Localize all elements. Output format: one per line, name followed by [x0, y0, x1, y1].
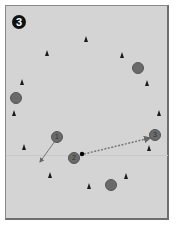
cone-icon [124, 173, 128, 179]
cone-icon [84, 36, 88, 42]
player-marker [10, 92, 22, 104]
cone-icon [145, 80, 149, 86]
run-arrow [40, 141, 55, 162]
movement-arrows [0, 0, 179, 233]
player-marker [105, 179, 117, 191]
cone-icon [87, 183, 91, 189]
pass-arrow [84, 138, 150, 154]
player-marker: 2 [68, 152, 80, 164]
ball [80, 152, 84, 156]
cone-icon [147, 145, 151, 151]
cone-icon [12, 110, 16, 116]
cone-icon [20, 79, 24, 85]
player-marker: 3 [149, 129, 161, 141]
player-marker: 1 [51, 131, 63, 143]
cone-icon [22, 144, 26, 150]
player-marker [132, 62, 144, 74]
cone-icon [45, 50, 49, 56]
cone-icon [120, 52, 124, 58]
cone-icon [48, 172, 52, 178]
cone-icon [157, 110, 161, 116]
